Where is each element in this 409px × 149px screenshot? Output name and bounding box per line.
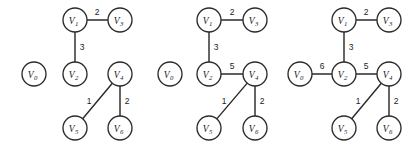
graph-node-subscript-v0: 0 bbox=[300, 74, 304, 81]
graph-node-subscript-v1: 1 bbox=[344, 20, 347, 27]
graph-canvas: 2312V0V1V2V3V4V5V623512V0V1V2V3V4V5V6236… bbox=[0, 0, 409, 149]
graph-node-subscript-v5: 5 bbox=[75, 128, 79, 135]
node-group: V0V1V2V3V4V5V6 bbox=[158, 8, 267, 140]
graph-node-subscript-v3: 3 bbox=[119, 20, 124, 27]
graph-node-subscript-v4: 4 bbox=[120, 74, 124, 81]
graph-node-subscript-v3: 3 bbox=[254, 20, 259, 27]
graph-node-subscript-v4: 4 bbox=[389, 74, 393, 81]
edge-weight-v1-v3: 2 bbox=[230, 7, 235, 17]
node-group: V0V1V2V3V4V5V6 bbox=[288, 8, 401, 140]
graph-node-subscript-v6: 6 bbox=[120, 128, 124, 135]
graph-node-subscript-v3: 3 bbox=[388, 20, 393, 27]
node-group: V0V1V2V3V4V5V6 bbox=[22, 8, 132, 140]
edge-weight-v1-v3: 2 bbox=[364, 7, 369, 17]
graph-node-subscript-v6: 6 bbox=[255, 128, 259, 135]
graph-figure: 2312V0V1V2V3V4V5V623512V0V1V2V3V4V5V6236… bbox=[0, 0, 409, 149]
edge-weight-v2-v4: 5 bbox=[364, 61, 369, 71]
panel-2: 23512V0V1V2V3V4V5V6 bbox=[158, 7, 267, 140]
edge-weight-v2-v4: 5 bbox=[230, 61, 235, 71]
panel-3: 236512V0V1V2V3V4V5V6 bbox=[288, 7, 401, 140]
graph-node-subscript-v1: 1 bbox=[75, 20, 78, 27]
edge-weight-v5-v4: 1 bbox=[222, 96, 227, 106]
edge-weight-v4-v6: 2 bbox=[125, 96, 130, 106]
edge-weight-v1-v2: 3 bbox=[214, 42, 219, 52]
edge-weight-v5-v4: 1 bbox=[87, 96, 92, 106]
graph-node-subscript-v5: 5 bbox=[344, 128, 348, 135]
graph-node-subscript-v5: 5 bbox=[209, 128, 213, 135]
edge-weight-v4-v6: 2 bbox=[260, 96, 265, 106]
graph-node-subscript-v2: 2 bbox=[75, 74, 79, 81]
graph-node-subscript-v2: 2 bbox=[209, 74, 213, 81]
graph-node-subscript-v2: 2 bbox=[344, 74, 348, 81]
edge-weight-v1-v3: 2 bbox=[95, 7, 100, 17]
edge-weight-v1-v2: 3 bbox=[349, 42, 354, 52]
graph-node-subscript-v6: 6 bbox=[389, 128, 393, 135]
edge-weight-v1-v2: 3 bbox=[80, 42, 85, 52]
graph-node-subscript-v0: 0 bbox=[34, 74, 38, 81]
graph-node-subscript-v1: 1 bbox=[209, 20, 212, 27]
panel-1: 2312V0V1V2V3V4V5V6 bbox=[22, 7, 132, 140]
graph-node-subscript-v0: 0 bbox=[170, 74, 174, 81]
edge-weight-v0-v2: 6 bbox=[320, 61, 325, 71]
edge-weight-v4-v6: 2 bbox=[394, 96, 399, 106]
graph-node-subscript-v4: 4 bbox=[255, 74, 259, 81]
edge-weight-v5-v4: 1 bbox=[356, 96, 361, 106]
